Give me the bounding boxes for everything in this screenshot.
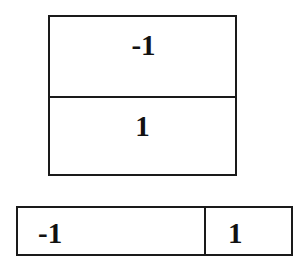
bottom-cell-label: 1 [50, 112, 235, 141]
horizontal-partition-box: -1 1 [16, 206, 293, 256]
right-cell-label: 1 [228, 219, 243, 248]
vertical-partition-box: -1 1 [48, 15, 237, 176]
top-cell-label: -1 [50, 31, 235, 60]
left-cell-label: -1 [38, 219, 62, 248]
horizontal-divider [50, 96, 235, 98]
vertical-divider [204, 208, 206, 254]
